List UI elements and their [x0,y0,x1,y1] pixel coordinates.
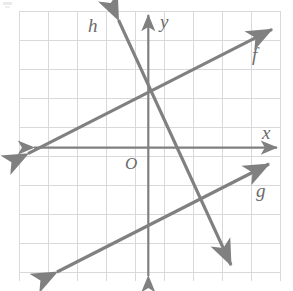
coordinate-plane-figure: h f g y x O [0,0,293,291]
label-y-axis: y [158,11,169,32]
scan-artifact [3,2,12,5]
label-line-g: g [256,180,266,201]
axes [34,15,277,276]
labels: h f g y x O [88,11,271,201]
plotted-lines [28,20,272,272]
label-x-axis: x [261,122,271,143]
line-g [57,164,269,272]
scan-artifact [5,6,10,8]
label-origin: O [125,154,137,173]
grid [19,11,281,281]
coordinate-plane-svg: h f g y x O [0,0,293,291]
label-line-h: h [88,15,98,36]
label-line-f: f [252,44,260,65]
